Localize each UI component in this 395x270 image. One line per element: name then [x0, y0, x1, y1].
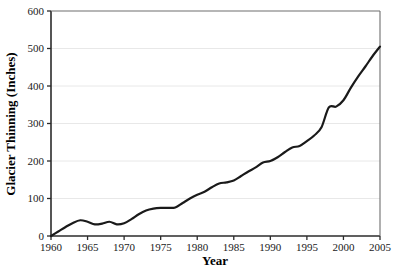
x-tick-label: 2005 [369, 241, 392, 253]
x-tick-label: 1970 [113, 241, 136, 253]
y-tick-label: 300 [28, 117, 45, 129]
x-axis-title: Year [202, 253, 228, 268]
x-tick-label: 1995 [296, 241, 319, 253]
y-tick-label: 500 [28, 42, 45, 54]
y-tick-label: 600 [28, 5, 45, 17]
y-tick-label: 400 [28, 80, 45, 92]
y-tick-label: 100 [28, 192, 45, 204]
x-tick-label: 1990 [259, 241, 282, 253]
x-tick-label: 1980 [186, 241, 209, 253]
x-tick-label: 1985 [223, 241, 246, 253]
x-tick-label: 1965 [77, 241, 100, 253]
glacier-thinning-line-chart: 0100200300400500600 19601965197019751980… [0, 0, 395, 270]
y-tick-label: 200 [28, 155, 45, 167]
chart-figure: 0100200300400500600 19601965197019751980… [0, 0, 395, 270]
x-tick-label: 1960 [40, 241, 63, 253]
chart-background [0, 0, 395, 270]
x-tick-label: 2000 [332, 241, 355, 253]
y-tick-label: 0 [39, 230, 45, 242]
x-tick-label: 1975 [150, 241, 173, 253]
y-axis-title: Glacier Thinning (Inches) [3, 52, 18, 195]
